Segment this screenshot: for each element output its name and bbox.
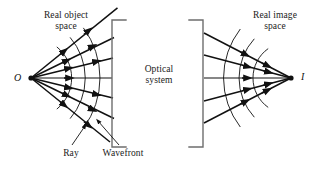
- label-ray: Ray: [54, 148, 88, 159]
- image-space-group: [204, 29, 294, 127]
- ray-arrowhead: [262, 63, 268, 66]
- label-image-point: I: [301, 72, 304, 82]
- ray-arrowhead: [262, 90, 268, 93]
- ray-arrowhead: [263, 84, 269, 86]
- ray: [204, 78, 291, 123]
- label-real-image-space: Real image space: [238, 10, 312, 32]
- label-real-object-space: Real object space: [12, 10, 120, 32]
- ray: [204, 33, 291, 78]
- ray-arrowhead: [242, 89, 248, 91]
- object-point-marker: [28, 75, 33, 80]
- optics-ray-diagram: Real object space Real image space Optic…: [0, 0, 318, 169]
- label-object-point: O: [14, 73, 21, 83]
- ray-arrowhead: [242, 65, 248, 67]
- label-wavefront: Wavefront: [92, 148, 154, 159]
- ray-arrowhead: [263, 71, 269, 73]
- label-optical-system: Optical system: [116, 64, 202, 86]
- ray-leader-line: [72, 126, 85, 145]
- image-point-marker: [288, 75, 293, 80]
